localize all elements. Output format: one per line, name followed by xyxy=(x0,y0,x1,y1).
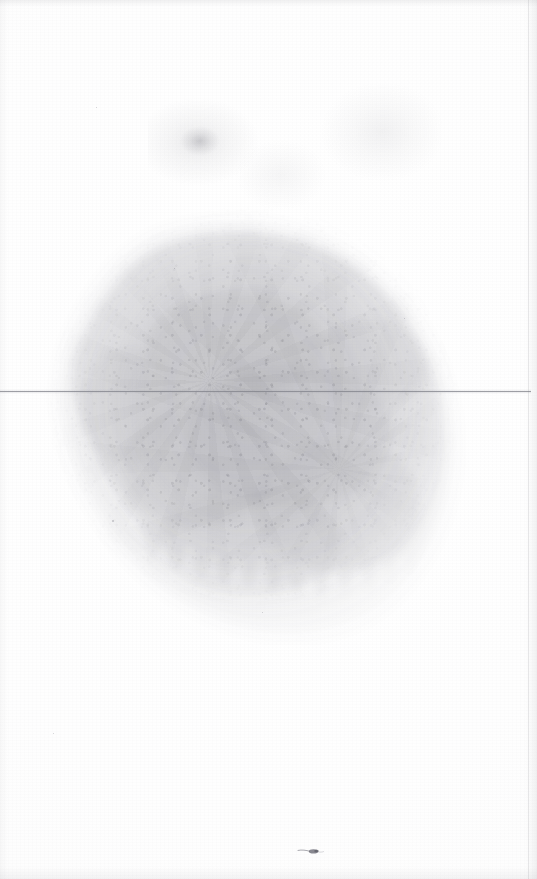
paper-background xyxy=(0,0,537,879)
scanned-page xyxy=(0,0,537,879)
horizontal-rule xyxy=(0,391,531,392)
